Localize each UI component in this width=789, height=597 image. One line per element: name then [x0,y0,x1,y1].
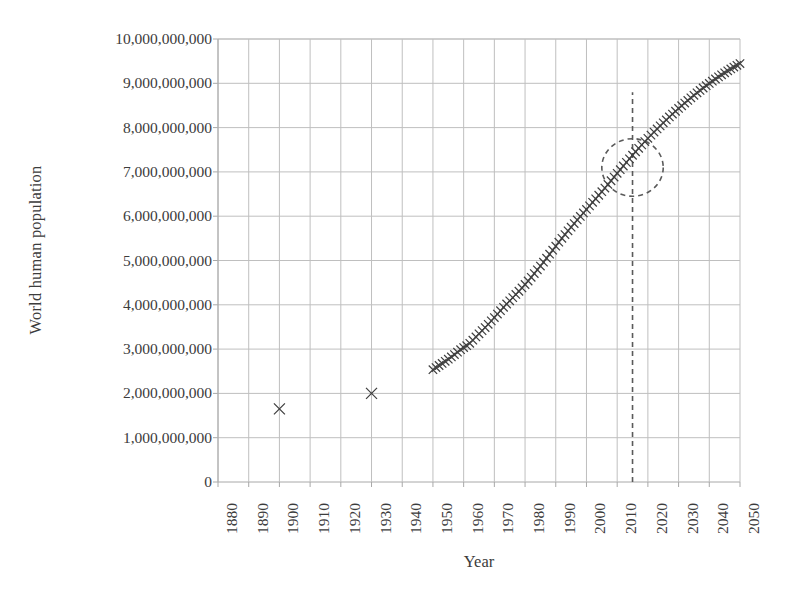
x-tick-label: 2020 [654,503,670,534]
population-chart-figure: World human population 01,000,000,0002,0… [0,0,789,597]
x-tick-label: 2040 [715,503,731,534]
x-tick-label: 2050 [746,503,762,534]
x-tick-label: 1970 [500,503,516,534]
x-tick-label: 1890 [255,503,271,534]
x-tick-label: 2030 [685,503,701,534]
x-tick-label: 1940 [408,503,424,534]
x-tick-label: 2000 [592,503,608,534]
x-axis-tick-labels: 1880189019001910192019301940195019601970… [0,0,789,597]
x-tick-label: 1990 [562,503,578,534]
x-tick-label: 1960 [470,503,486,534]
x-tick-label: 1980 [531,503,547,534]
x-axis-title: Year [218,552,740,572]
x-tick-label: 1880 [224,503,240,534]
x-tick-label: 1920 [347,503,363,534]
x-tick-label: 1950 [439,503,455,534]
x-tick-label: 1900 [285,503,301,534]
x-tick-label: 1910 [316,503,332,534]
x-tick-label: 1930 [378,503,394,534]
x-tick-label: 2010 [623,503,639,534]
